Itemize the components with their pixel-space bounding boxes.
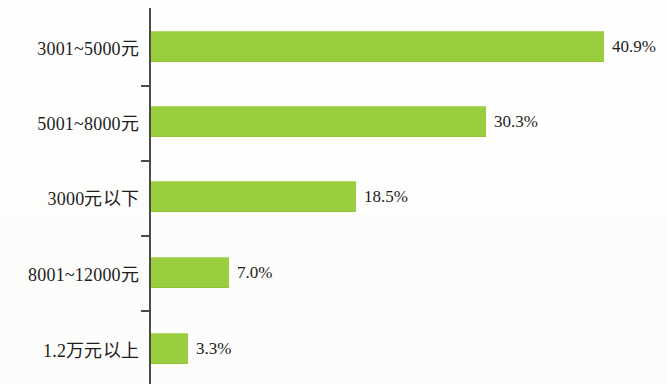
bar-segment[interactable] <box>151 333 188 364</box>
axis-tick <box>141 310 150 312</box>
category-label: 3000元以下 <box>48 184 139 210</box>
bar-segment[interactable] <box>151 31 604 62</box>
axis-tick <box>141 85 150 87</box>
category-label: 5001~8000元 <box>37 109 139 135</box>
bar-value-label: 40.9% <box>612 37 656 57</box>
bar-segment[interactable] <box>151 181 356 212</box>
bar-value-label: 3.3% <box>196 339 231 359</box>
bar-value-label: 30.3% <box>494 112 538 132</box>
bar-value-label: 18.5% <box>364 187 408 207</box>
bar-value-label: 7.0% <box>237 263 272 283</box>
bar-row: 8001~12000元 7.0% <box>0 257 667 288</box>
bar-row: 3000元以下 18.5% <box>0 181 667 212</box>
category-label: 3001~5000元 <box>37 34 139 60</box>
bar-row: 3001~5000元 40.9% <box>0 31 667 62</box>
bar-chart: 3001~5000元 40.9% 5001~8000元 30.3% 3000元以… <box>0 0 667 384</box>
bar-row: 5001~8000元 30.3% <box>0 106 667 137</box>
axis-tick <box>141 235 150 237</box>
category-label: 1.2万元以上 <box>43 336 139 362</box>
axis-tick <box>141 160 150 162</box>
bar-segment[interactable] <box>151 106 486 137</box>
bar-segment[interactable] <box>151 257 229 288</box>
category-label: 8001~12000元 <box>28 260 139 286</box>
bar-row: 1.2万元以上 3.3% <box>0 333 667 364</box>
